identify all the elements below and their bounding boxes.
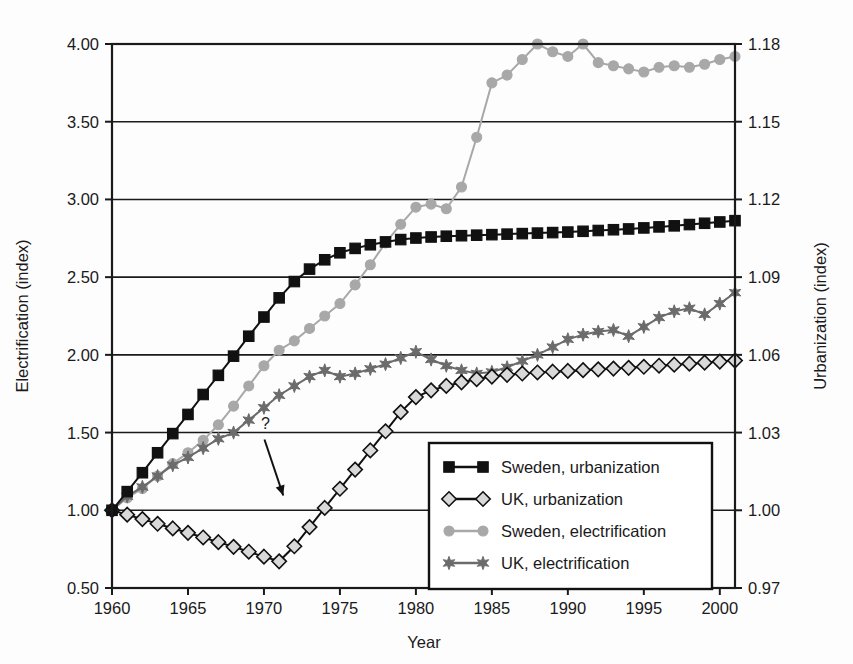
legend-label: Sweden, electrification <box>501 522 666 540</box>
marker-diamond <box>576 363 590 377</box>
marker-square <box>320 255 330 265</box>
marker-square <box>639 223 649 233</box>
marker-star <box>289 379 300 392</box>
marker-diamond <box>530 365 544 379</box>
marker-star <box>273 389 284 402</box>
marker-square <box>396 234 406 244</box>
marker-circle <box>472 132 482 142</box>
marker-circle <box>593 58 603 68</box>
marker-diamond <box>439 379 453 393</box>
marker-square <box>228 351 238 361</box>
marker-star <box>441 359 452 372</box>
y-tick-label-left: 0.50 <box>67 579 99 597</box>
marker-diamond <box>211 535 225 549</box>
marker-star <box>395 351 406 364</box>
marker-diamond <box>226 540 240 554</box>
marker-square <box>669 221 679 231</box>
marker-circle <box>396 219 406 229</box>
y-tick-label-right: 1.03 <box>748 424 780 442</box>
marker-circle <box>229 401 239 411</box>
marker-square <box>350 243 360 253</box>
marker-square <box>487 229 497 239</box>
marker-square <box>168 428 178 438</box>
x-tick-label: 1985 <box>474 599 511 617</box>
annotation-arrow-head <box>276 485 285 496</box>
chart-legend: Sweden, urbanizationUK, urbanizationSwed… <box>429 443 712 589</box>
marker-circle <box>365 260 375 270</box>
marker-square <box>608 225 618 235</box>
marker-circle <box>517 55 527 65</box>
marker-star <box>653 311 664 324</box>
marker-diamond <box>667 358 681 372</box>
marker-diamond <box>196 530 210 544</box>
marker-star <box>699 308 710 321</box>
marker-square <box>304 264 314 274</box>
marker-star <box>714 297 725 310</box>
y-axis-right-title: Urbanization (index) <box>811 242 829 390</box>
marker-diamond <box>181 526 195 540</box>
marker-diamond <box>166 521 180 535</box>
marker-diamond <box>242 545 256 559</box>
x-tick-label: 2000 <box>701 599 738 617</box>
chart-figure: 1960196519701975198019851990199520000.50… <box>0 0 853 664</box>
marker-star <box>562 333 573 346</box>
marker-square <box>563 227 573 237</box>
y-tick-label-right: 1.12 <box>748 190 780 208</box>
legend-label: UK, urbanization <box>501 490 623 508</box>
marker-star <box>304 370 315 383</box>
marker-circle <box>274 345 284 355</box>
marker-circle <box>487 78 497 88</box>
x-tick-label: 1975 <box>322 599 359 617</box>
marker-star <box>213 432 224 445</box>
y-tick-label-right: 1.15 <box>748 113 780 131</box>
marker-circle <box>624 64 634 74</box>
marker-circle <box>411 202 421 212</box>
marker-diamond <box>135 512 149 526</box>
marker-square <box>183 409 193 419</box>
marker-circle <box>563 51 573 61</box>
marker-star <box>547 340 558 353</box>
marker-square <box>441 231 451 241</box>
marker-circle <box>608 61 618 71</box>
legend-label: Sweden, urbanization <box>501 458 660 476</box>
marker-square <box>213 370 223 380</box>
y-tick-label-right: 1.18 <box>748 35 780 53</box>
marker-circle <box>456 182 466 192</box>
marker-circle <box>444 526 454 536</box>
marker-square <box>198 389 208 399</box>
marker-circle <box>502 70 512 80</box>
chart-annotations: ? <box>261 415 284 495</box>
marker-square <box>654 222 664 232</box>
marker-diamond <box>561 364 575 378</box>
marker-circle <box>335 299 345 309</box>
x-tick-label: 1970 <box>246 599 283 617</box>
marker-circle <box>289 336 299 346</box>
marker-square <box>444 462 454 472</box>
legend-label: UK, electrification <box>501 554 629 572</box>
marker-square <box>122 486 132 496</box>
marker-diamond <box>469 372 483 386</box>
marker-diamond <box>515 366 529 380</box>
marker-square <box>699 218 709 228</box>
marker-square <box>244 331 254 341</box>
marker-square <box>335 248 345 258</box>
marker-diamond <box>454 375 468 389</box>
marker-circle <box>441 204 451 214</box>
marker-diamond <box>652 359 666 373</box>
y-tick-label-left: 3.00 <box>67 190 99 208</box>
marker-star <box>410 345 421 358</box>
marker-square <box>289 276 299 286</box>
marker-diamond <box>637 360 651 374</box>
y-tick-label-left: 1.00 <box>67 501 99 519</box>
chart-canvas: 1960196519701975198019851990199520000.50… <box>0 0 853 664</box>
marker-square <box>365 240 375 250</box>
marker-diamond <box>697 355 711 369</box>
marker-star <box>243 414 254 427</box>
marker-square <box>411 233 421 243</box>
marker-star <box>258 401 269 414</box>
marker-square <box>259 312 269 322</box>
marker-circle <box>320 311 330 321</box>
marker-square <box>478 462 488 472</box>
y-tick-label-left: 2.00 <box>67 346 99 364</box>
marker-diamond <box>257 549 271 563</box>
